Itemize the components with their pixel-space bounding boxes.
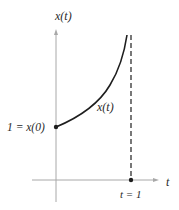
initial-point-dot [54,125,58,129]
diagram-svg: x(t) t x(t) 1 = x(0) t = 1 [0,0,179,210]
curve-x-of-t [56,35,127,127]
blowup-time-label: t = 1 [120,188,141,200]
x-axis-arrow-icon [153,178,159,182]
curve-label: x(t) [96,100,114,114]
x-axis-label: t [166,175,170,189]
y-axis-label: x(t) [54,9,72,23]
diagram-canvas: x(t) t x(t) 1 = x(0) t = 1 [0,0,179,210]
t-equals-one-dot [129,178,133,182]
initial-point-label: 1 = x(0) [7,121,45,134]
y-axis-arrow-icon [54,29,58,35]
